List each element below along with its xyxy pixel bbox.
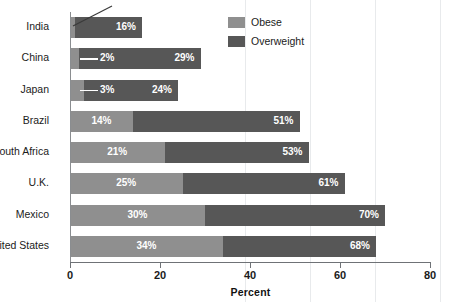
x-axis-tick-label: 80 bbox=[410, 269, 449, 281]
value-label-obese: 30% bbox=[127, 208, 147, 222]
x-axis-tick-label: 20 bbox=[140, 269, 180, 281]
value-label-overweight: 68% bbox=[350, 239, 370, 253]
x-axis-tick bbox=[250, 262, 251, 268]
y-axis-line bbox=[70, 12, 71, 262]
value-label-obese: 3% bbox=[100, 83, 114, 97]
category-label: Brazil bbox=[0, 114, 49, 126]
bar-row: Japan24%3% bbox=[70, 75, 430, 106]
value-label-overweight: 16% bbox=[116, 20, 136, 34]
value-label-overweight: 70% bbox=[359, 208, 379, 222]
x-axis-title: Percent bbox=[70, 286, 431, 298]
leader-line bbox=[80, 58, 98, 60]
leader-line bbox=[80, 90, 98, 92]
bar-row: South Africa53%21% bbox=[70, 137, 430, 168]
x-axis-tick-label: 60 bbox=[320, 269, 360, 281]
value-label-overweight: 29% bbox=[174, 51, 194, 65]
value-label-obese: 25% bbox=[116, 176, 136, 190]
bar-chart-figure: Obese Overweight India16%1%China29%2%Jap… bbox=[0, 0, 449, 302]
bar-row: Brazil51%14% bbox=[70, 106, 430, 137]
x-axis-tick bbox=[430, 262, 431, 268]
value-label-overweight: 24% bbox=[152, 83, 172, 97]
category-label: U.K. bbox=[0, 176, 49, 188]
category-label: South Africa bbox=[0, 145, 49, 157]
bar-row: China29%2% bbox=[70, 43, 430, 74]
category-label: India bbox=[0, 20, 49, 32]
value-label-overweight: 61% bbox=[318, 176, 338, 190]
x-axis-tick-label: 40 bbox=[230, 269, 270, 281]
value-label-obese: 34% bbox=[136, 239, 156, 253]
value-label-obese: 2% bbox=[100, 51, 114, 65]
category-label: Japan bbox=[0, 83, 49, 95]
x-axis-tick-label: 0 bbox=[50, 269, 90, 281]
x-axis-tick bbox=[160, 262, 161, 268]
category-label: United States bbox=[0, 239, 49, 251]
x-axis-tick bbox=[70, 262, 71, 268]
value-label-obese: 14% bbox=[91, 114, 111, 128]
bar-row: United States68%34% bbox=[70, 231, 430, 262]
value-label-overweight: 53% bbox=[282, 145, 302, 159]
category-label: China bbox=[0, 51, 49, 63]
bar-segment-obese bbox=[70, 48, 79, 69]
value-label-obese: 21% bbox=[107, 145, 127, 159]
bar-row: U.K.61%25% bbox=[70, 168, 430, 199]
x-axis-tick bbox=[340, 262, 341, 268]
category-label: Mexico bbox=[0, 208, 49, 220]
bar-row: Mexico70%30% bbox=[70, 200, 430, 231]
plot-area: India16%1%China29%2%Japan24%3%Brazil51%1… bbox=[70, 12, 430, 262]
value-label-overweight: 51% bbox=[273, 114, 293, 128]
value-label-obese: 1% bbox=[104, 0, 118, 1]
bar-row: India16%1% bbox=[70, 12, 430, 43]
